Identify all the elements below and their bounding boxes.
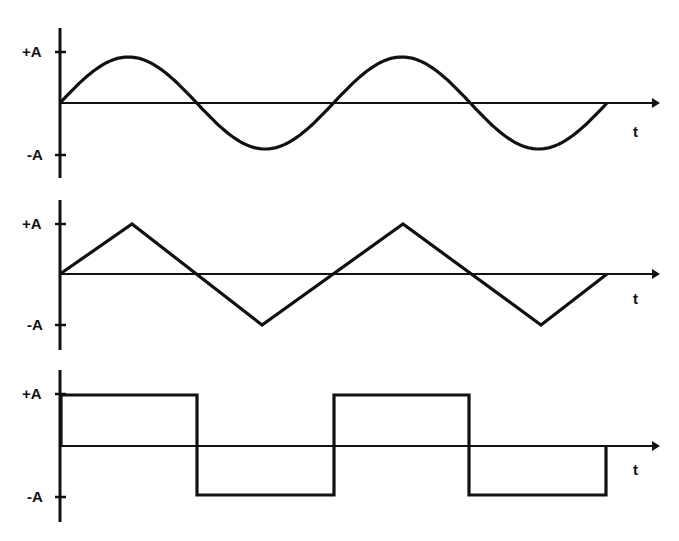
label-neg-a: -A <box>27 316 43 333</box>
x-axis-arrow-icon <box>652 98 660 108</box>
label-pos-a: +A <box>22 43 42 60</box>
label-t: t <box>633 290 638 307</box>
label-neg-a: -A <box>27 488 43 505</box>
x-axis-arrow-icon <box>652 441 660 451</box>
x-axis-arrow-icon <box>652 269 660 279</box>
label-neg-a: -A <box>27 146 43 163</box>
sine-panel: +A -A t <box>22 28 660 178</box>
triangle-panel: +A -A t <box>22 200 660 350</box>
label-t: t <box>633 123 638 140</box>
waveform-diagram: +A -A t +A -A t +A -A t <box>0 0 679 541</box>
label-pos-a: +A <box>22 385 42 402</box>
label-pos-a: +A <box>22 215 42 232</box>
label-t: t <box>633 461 638 478</box>
square-panel: +A -A t <box>22 370 660 522</box>
